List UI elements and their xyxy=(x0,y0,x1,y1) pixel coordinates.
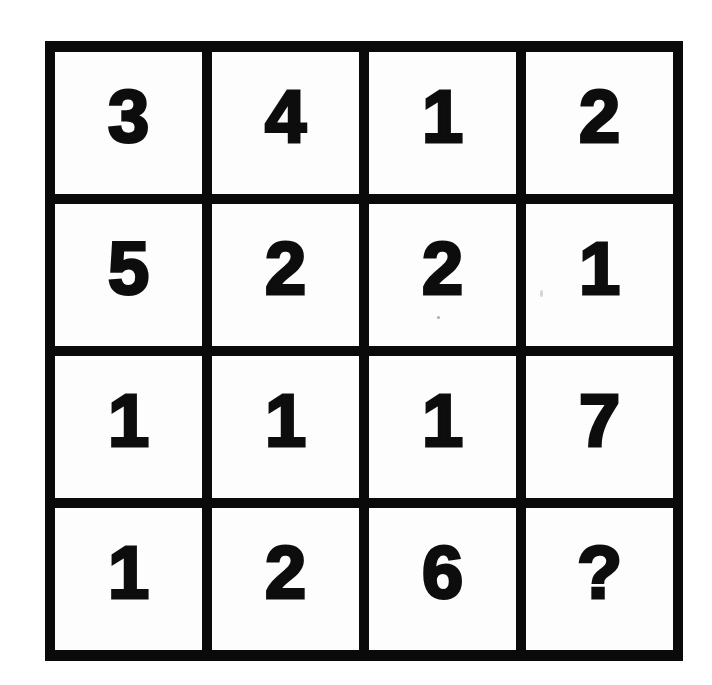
cell-value: 2 xyxy=(579,80,620,154)
cell-value: 5 xyxy=(108,232,149,306)
scan-speck xyxy=(540,290,543,297)
cell-r1-c2: 4 xyxy=(212,52,359,194)
cell-r2-c2: 2 xyxy=(212,204,359,346)
cell-value: 1 xyxy=(265,384,306,458)
cell-r3-c4: 7 xyxy=(526,356,673,498)
cell-value: 3 xyxy=(108,80,149,154)
cell-value: 1 xyxy=(108,536,149,610)
cell-value: 1 xyxy=(579,232,620,306)
scan-speck xyxy=(437,316,440,319)
cell-value: 2 xyxy=(265,232,306,306)
cell-r2-c1: 5 xyxy=(55,204,202,346)
cell-r1-c1: 3 xyxy=(55,52,202,194)
cell-r2-c4: 1 xyxy=(526,204,673,346)
cell-value: 6 xyxy=(422,536,463,610)
cell-value: 7 xyxy=(579,384,620,458)
cell-value: 2 xyxy=(422,232,463,306)
cell-value: 1 xyxy=(422,80,463,154)
missing-value-question-mark: ? xyxy=(577,536,622,610)
cell-r4-c4-missing: ? xyxy=(526,508,673,650)
cell-r1-c4: 2 xyxy=(526,52,673,194)
cell-value: 1 xyxy=(422,384,463,458)
cell-r2-c3: 2 xyxy=(369,204,516,346)
cell-r3-c1: 1 xyxy=(55,356,202,498)
cell-r3-c3: 1 xyxy=(369,356,516,498)
cell-r1-c3: 1 xyxy=(369,52,516,194)
cell-r4-c2: 2 xyxy=(212,508,359,650)
puzzle-grid: 3 4 1 2 5 2 2 1 1 1 1 7 1 2 6 ? xyxy=(45,41,683,661)
cell-r4-c1: 1 xyxy=(55,508,202,650)
cell-r4-c3: 6 xyxy=(369,508,516,650)
cell-value: 2 xyxy=(265,536,306,610)
cell-r3-c2: 1 xyxy=(212,356,359,498)
cell-value: 1 xyxy=(108,384,149,458)
cell-value: 4 xyxy=(265,80,306,154)
